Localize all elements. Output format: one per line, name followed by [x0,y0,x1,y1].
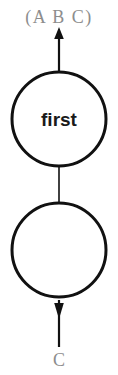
arrow-up-icon [54,27,64,39]
edge-input-to-first [54,27,64,72]
output-label: C [53,350,65,370]
flow-diagram: (A B C) first C [0,0,118,375]
node-second-circle[interactable] [12,203,106,297]
node-first-label: first [41,109,78,130]
arrow-down-icon [54,303,64,319]
edge-second-to-output [54,300,64,347]
input-label: (A B C) [25,7,93,28]
diagram-canvas: (A B C) first C [0,0,118,375]
